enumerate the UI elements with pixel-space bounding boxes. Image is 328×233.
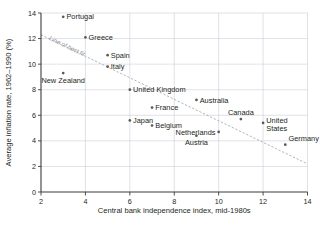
y-tick-label: 10 [28, 60, 36, 69]
data-point-label: Australia [200, 96, 230, 105]
data-point-marker [62, 72, 65, 75]
y-tick-label: 8 [32, 85, 36, 94]
data-point-marker [106, 54, 109, 57]
data-point-marker [217, 131, 220, 134]
y-axis-title: Average inflation rate, 1962–1990 (%) [4, 38, 13, 166]
data-point-marker [151, 124, 154, 127]
data-point-label: France [155, 103, 178, 112]
y-tick-label: 4 [32, 136, 36, 145]
chart-canvas: Line of best fit024681012142468101214Cen… [0, 0, 328, 233]
x-tick-label: 4 [83, 197, 87, 206]
data-point-label: UnitedStates [266, 116, 287, 133]
data-point-label: Spain [111, 51, 130, 60]
data-point-label: Germany [288, 134, 319, 143]
data-point-label: Austria [185, 138, 209, 147]
data-point-label: Portugal [66, 12, 94, 21]
data-point-marker [151, 106, 154, 109]
data-point-label: Japan [133, 116, 153, 125]
data-point-label: Greece [89, 33, 113, 42]
y-tick-label: 2 [32, 162, 36, 171]
scatter-chart: Line of best fit024681012142468101214Cen… [0, 0, 328, 233]
x-tick-label: 2 [39, 197, 43, 206]
data-point-marker [195, 134, 198, 137]
data-point-marker [128, 88, 131, 91]
data-point-marker [262, 122, 265, 125]
data-point-marker [284, 143, 287, 146]
data-point-marker [62, 15, 65, 18]
data-point-marker [128, 119, 131, 122]
data-point-marker [84, 36, 87, 39]
data-point-label: United Kingdom [133, 85, 186, 94]
x-tick-label: 8 [172, 197, 176, 206]
data-point-marker [106, 65, 109, 68]
y-tick-label: 12 [28, 34, 36, 43]
y-tick-label: 0 [32, 188, 36, 197]
x-tick-label: 12 [259, 197, 267, 206]
data-point-label: New Zealand [41, 76, 85, 85]
data-point-marker [195, 99, 198, 102]
trend-line-annotation: Line of best fit [48, 34, 86, 57]
x-tick-label: 14 [304, 197, 312, 206]
x-tick-label: 6 [128, 197, 132, 206]
data-point-label: Italy [111, 62, 125, 71]
data-point-label: Canada [228, 108, 255, 117]
y-tick-label: 6 [32, 111, 36, 120]
x-tick-label: 10 [215, 197, 223, 206]
x-axis-title: Central bank independence index, mid-198… [98, 206, 251, 215]
y-tick-label: 14 [28, 9, 36, 18]
data-point-marker [240, 118, 243, 121]
